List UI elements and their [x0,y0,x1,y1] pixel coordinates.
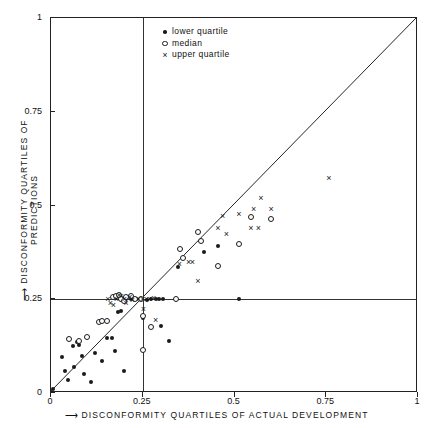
data-point-upper: × [222,230,230,238]
plot-area: ××××××××××××××××××××××××××××××× [50,17,417,392]
data-point-lower [100,359,104,363]
data-point-lower [60,355,64,359]
gridline-vertical [143,18,144,391]
legend-item-lower-quartile: lower quartile [158,26,230,38]
data-point-median [84,334,90,340]
data-point-median [177,246,183,252]
y-axis-tick-label: 0.5 [8,200,42,210]
y-axis-tick [50,17,55,18]
data-point-lower [72,365,76,369]
data-point-upper: × [139,305,147,313]
data-point-median [140,313,146,319]
y-axis-tick [50,298,55,299]
scatter-plot-figure: ××××××××××××××××××××××××××××××× ⟶DISCONF… [0,0,433,428]
data-point-upper: × [325,174,333,182]
legend-item-median: median [158,38,230,50]
x-axis-tick-label: 0.25 [133,396,151,406]
data-point-lower [82,372,86,376]
y-axis-tick-label: 0 [8,387,42,397]
data-point-upper: × [214,224,222,232]
y-axis-tick-label: 0.75 [8,106,42,116]
y-axis-tick-label: 0.25 [8,293,42,303]
data-point-lower [66,378,70,382]
data-point-upper: × [235,210,243,218]
data-point-median [76,338,82,344]
data-point-lower [161,297,165,301]
data-point-median [195,229,201,235]
data-point-lower [105,336,109,340]
upper-quartile-marker-icon: × [158,51,172,60]
x-axis-tick-label: 0 [47,396,52,406]
data-point-median [268,216,274,222]
data-point-lower [93,351,97,355]
data-point-lower [202,250,206,254]
median-marker-icon [158,41,172,47]
legend-label-median: median [172,38,202,50]
data-point-upper: × [219,212,227,220]
x-axis-tick-label: 0.75 [316,396,334,406]
data-point-upper: × [150,294,158,302]
data-point-upper: × [257,194,265,202]
x-axis-arrow-icon: ⟶ [65,410,78,420]
data-point-upper: × [254,224,262,232]
data-point-lower [167,339,171,343]
x-axis-tick-label: 1 [414,396,419,406]
data-point-median [198,238,204,244]
lower-quartile-marker-icon [158,30,172,34]
data-point-lower [71,344,75,348]
data-point-lower [159,324,163,328]
y-axis-tick [50,111,55,112]
data-point-upper: × [188,258,196,266]
legend-label-lower-quartile: lower quartile [172,26,228,38]
data-point-lower [119,309,123,313]
data-point-lower [110,336,114,340]
data-point-median [104,318,110,324]
x-axis-title-label: DISCONFORMITY QUARTILES OF ACTUAL DEVELO… [82,410,369,420]
data-point-median [148,324,154,330]
data-point-lower [63,369,67,373]
data-point-median [236,241,242,247]
data-point-upper: × [250,205,258,213]
y-axis-tick [50,205,55,206]
data-point-median [173,296,179,302]
x-axis-title: ⟶DISCONFORMITY QUARTILES OF ACTUAL DEVEL… [0,410,433,420]
y-axis-tick-label: 1 [8,12,42,22]
data-point-upper: × [267,205,275,213]
data-point-lower [77,343,81,347]
data-point-median [215,263,221,269]
y-axis-tick [50,392,55,393]
data-point-lower [216,244,220,248]
data-point-median [140,347,146,353]
data-point-lower [51,387,55,391]
data-point-median [248,214,254,220]
data-point-upper: × [175,260,183,268]
data-point-median [66,336,72,342]
legend-item-upper-quartile: × upper quartile [158,49,230,61]
legend-label-upper-quartile: upper quartile [172,49,230,61]
data-point-lower [122,369,126,373]
data-point-lower [80,354,84,358]
data-point-lower [113,349,117,353]
data-point-lower [237,297,241,301]
data-point-lower [89,380,93,384]
x-axis-tick-label: 0.5 [227,396,240,406]
legend: lower quartile median × upper quartile [158,26,230,61]
data-point-upper: × [152,316,160,324]
data-point-upper: × [194,277,202,285]
